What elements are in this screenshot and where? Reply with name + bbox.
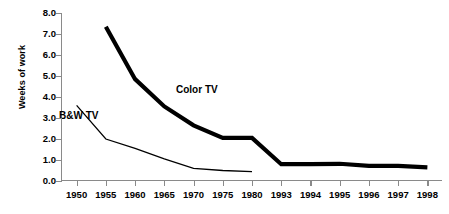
y-axis-tick: [56, 160, 62, 161]
y-axis-tick: [56, 97, 62, 98]
series-label-bw-tv: B&W TV: [59, 110, 98, 121]
series-label-color-tv: Color TV: [176, 84, 218, 95]
y-axis-tick: [56, 13, 62, 14]
y-axis-tick: [56, 76, 62, 77]
line-chart: Weeks of work 8.07.06.05.04.03.02.01.00.…: [0, 0, 449, 214]
y-axis-tick: [56, 55, 62, 56]
y-axis-tick: [56, 118, 62, 119]
plot-lines: [0, 0, 449, 214]
y-axis-tick: [56, 139, 62, 140]
y-axis-tick: [56, 181, 62, 182]
y-axis-tick: [56, 34, 62, 35]
series-line-color-tv: [106, 27, 428, 168]
